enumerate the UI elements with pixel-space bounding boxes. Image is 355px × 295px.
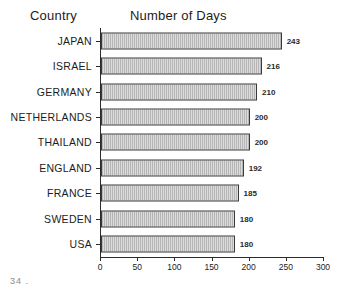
bar-category-label: GERMANY xyxy=(37,86,92,98)
x-axis-tick-label: 0 xyxy=(98,262,103,272)
bar-value-label: 180 xyxy=(240,214,253,223)
x-axis-tick-mark xyxy=(212,257,213,261)
x-axis-tick-mark xyxy=(249,257,250,261)
bar xyxy=(101,109,250,126)
x-axis-tick-mark xyxy=(286,257,287,261)
bar-category-label: NETHERLANDS xyxy=(11,111,92,123)
x-axis-ticks: 050100150200250300 xyxy=(100,257,323,279)
bar-category-label: THAILAND xyxy=(38,136,92,148)
y-axis-tick xyxy=(96,66,100,67)
bar-value-label: 180 xyxy=(240,240,253,249)
x-axis-tick-mark xyxy=(323,257,324,261)
chart-title: Number of Days xyxy=(130,8,227,23)
bar-category-label: ISRAEL xyxy=(53,60,92,72)
bar-value-label: 210 xyxy=(262,87,275,96)
bar-row: SWEDEN180 xyxy=(100,206,323,231)
bar-value-label: 200 xyxy=(255,113,268,122)
bar-category-label: USA xyxy=(70,238,93,250)
bar-value-label: 200 xyxy=(255,138,268,147)
bar xyxy=(101,32,282,49)
bar xyxy=(101,210,235,227)
x-axis-tick-mark xyxy=(174,257,175,261)
bar-rows: JAPAN243ISRAEL216GERMANY210NETHERLANDS20… xyxy=(100,28,323,257)
bar xyxy=(101,185,239,202)
x-axis-tick-label: 100 xyxy=(167,262,181,272)
y-axis-tick xyxy=(96,244,100,245)
y-axis-tick xyxy=(96,193,100,194)
bar-category-label: SWEDEN xyxy=(44,213,92,225)
bar-category-label: ENGLAND xyxy=(39,162,92,174)
x-axis-tick-label: 150 xyxy=(204,262,218,272)
y-axis-tick xyxy=(96,142,100,143)
bar-row: THAILAND200 xyxy=(100,130,323,155)
bar-row: GERMANY210 xyxy=(100,79,323,104)
x-axis-tick-label: 50 xyxy=(132,262,141,272)
bar xyxy=(101,58,262,75)
x-axis-tick-mark xyxy=(137,257,138,261)
y-axis-tick xyxy=(96,219,100,220)
bar xyxy=(101,236,235,253)
bar-value-label: 192 xyxy=(249,163,262,172)
x-axis-tick-mark xyxy=(100,257,101,261)
page-number: 34 . xyxy=(10,276,29,286)
bar-category-label: JAPAN xyxy=(57,35,92,47)
x-axis-tick-label: 250 xyxy=(279,262,293,272)
bar-row: NETHERLANDS200 xyxy=(100,104,323,129)
bar-category-label: FRANCE xyxy=(47,187,92,199)
bar-row: ENGLAND192 xyxy=(100,155,323,180)
y-axis-tick xyxy=(96,168,100,169)
bar-value-label: 243 xyxy=(287,36,300,45)
bar-row: JAPAN243 xyxy=(100,28,323,53)
bar xyxy=(101,159,244,176)
category-column-header: Country xyxy=(30,8,77,23)
bar xyxy=(101,83,257,100)
x-axis-tick-label: 200 xyxy=(242,262,256,272)
y-axis-tick xyxy=(96,92,100,93)
y-axis-tick xyxy=(96,41,100,42)
y-axis-tick xyxy=(96,117,100,118)
bar-row: ISRAEL216 xyxy=(100,53,323,78)
plot-area: JAPAN243ISRAEL216GERMANY210NETHERLANDS20… xyxy=(100,28,323,257)
bar-value-label: 185 xyxy=(244,189,257,198)
bar-row: FRANCE185 xyxy=(100,181,323,206)
bar-row: USA180 xyxy=(100,232,323,257)
bar-chart: Country Number of Days JAPAN243ISRAEL216… xyxy=(0,0,355,295)
bar-value-label: 216 xyxy=(267,62,280,71)
bar xyxy=(101,134,250,151)
chart-header: Country Number of Days xyxy=(0,8,355,28)
x-axis-tick-label: 300 xyxy=(316,262,330,272)
